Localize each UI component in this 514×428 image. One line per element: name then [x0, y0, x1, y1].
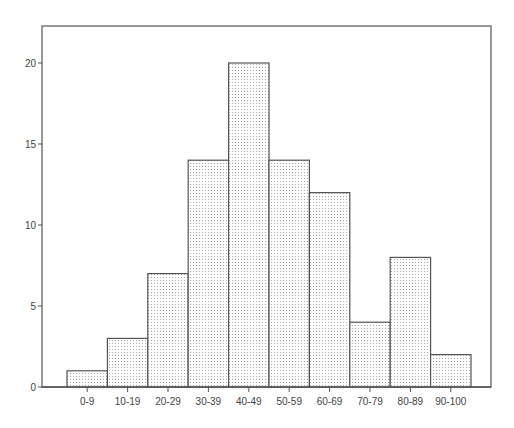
x-tick-label: 0-9 [80, 396, 95, 407]
x-tick-label: 30-39 [196, 396, 222, 407]
bar-90-100 [431, 355, 471, 387]
y-tick-label: 0 [30, 382, 36, 393]
y-tick-label: 15 [25, 139, 37, 150]
y-axis: 05101520 [25, 58, 42, 393]
x-tick-label: 90-100 [435, 396, 467, 407]
x-tick-label: 70-79 [357, 396, 383, 407]
histogram-chart: 05101520 0-910-1920-2930-3940-4950-5960-… [0, 0, 514, 428]
x-tick-label: 40-49 [236, 396, 262, 407]
x-tick-label: 20-29 [155, 396, 181, 407]
bar-40-49 [229, 63, 269, 387]
bar-20-29 [148, 274, 188, 387]
bar-30-39 [188, 160, 228, 387]
bar-50-59 [269, 160, 309, 387]
x-tick-label: 80-89 [398, 396, 424, 407]
y-tick-label: 10 [25, 220, 37, 231]
y-tick-label: 20 [25, 58, 37, 69]
x-tick-label: 60-69 [317, 396, 343, 407]
y-tick-label: 5 [30, 301, 36, 312]
bars-group [67, 63, 471, 387]
x-tick-label: 10-19 [115, 396, 141, 407]
x-axis: 0-910-1920-2930-3940-4950-5960-6970-7980… [42, 387, 491, 407]
x-tick-label: 50-59 [276, 396, 302, 407]
bar-0-9 [67, 371, 107, 387]
bar-10-19 [107, 338, 147, 387]
bar-60-69 [309, 193, 349, 387]
bar-70-79 [350, 322, 390, 387]
bar-80-89 [390, 257, 430, 387]
